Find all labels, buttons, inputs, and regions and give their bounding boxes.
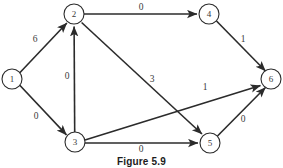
edge-weight-1-2: 6 [33, 34, 38, 44]
figure-container: 1 2 3 4 5 6 6 [0, 0, 283, 168]
edge-weight-2-5: 3 [150, 74, 155, 84]
node-3[interactable]: 3 [65, 132, 85, 152]
node-2-label: 2 [72, 9, 77, 19]
directed-graph: 1 2 3 4 5 6 6 [0, 0, 283, 168]
node-4[interactable]: 4 [199, 4, 219, 24]
node-2[interactable]: 2 [64, 4, 84, 24]
edge-3-6 [85, 86, 261, 141]
edge-1-3 [20, 85, 67, 135]
edge-1-2 [20, 23, 67, 73]
edge-weight-3-6: 1 [203, 82, 208, 92]
figure-caption: Figure 5.9 [0, 156, 283, 167]
node-1-label: 1 [10, 74, 15, 84]
node-6-label: 6 [269, 74, 274, 84]
edge-weight-1-3: 0 [34, 111, 39, 121]
node-1[interactable]: 1 [2, 69, 22, 89]
node-5[interactable]: 5 [200, 133, 220, 153]
node-6[interactable]: 6 [261, 69, 281, 89]
edge-group [20, 14, 266, 143]
edge-4-6 [217, 21, 266, 71]
edge-2-5 [82, 23, 202, 135]
edge-weight-2-4: 0 [139, 2, 144, 12]
edge-weight-3-2: 0 [65, 71, 70, 81]
node-4-label: 4 [207, 9, 212, 19]
node-3-label: 3 [73, 137, 78, 147]
node-5-label: 5 [208, 138, 213, 148]
edge-weight-3-5: 0 [139, 144, 144, 154]
edge-5-6 [218, 88, 266, 137]
edge-weight-4-6: 1 [241, 34, 246, 44]
edge-weight-5-6: 0 [241, 114, 246, 124]
edge-3-2 [74, 27, 75, 133]
